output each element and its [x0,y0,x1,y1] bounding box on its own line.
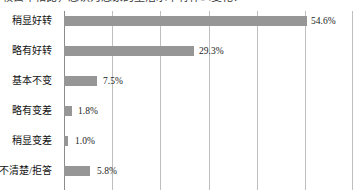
value-label: 1.0% [75,132,95,150]
bar-rows: 稍显好转 54.6% 略有好转 29.3% 基本不变 7.5% 略有变差 1.8… [64,11,353,190]
caption-text: 较去年相比，您认为您家的生活水平有什么变化？ [2,0,244,3]
value-label: 7.5% [103,72,123,90]
bar [64,46,194,56]
value-label: 29.3% [199,42,224,60]
category-label: 略有变差 [0,101,52,121]
category-label: 稍显变差 [0,131,52,151]
category-label: 略有好转 [0,41,52,61]
bar-row: 稍显好转 54.6% [64,11,353,41]
bar [64,136,68,146]
value-label: 54.6% [311,12,336,30]
plot-area: 稍显好转 54.6% 略有好转 29.3% 基本不变 7.5% 略有变差 1.8… [64,11,353,190]
bar-row: 略有好转 29.3% [64,41,353,71]
value-label: 1.8% [78,102,98,120]
category-label: 基本不变 [0,71,52,91]
bar [64,166,90,176]
bar-chart-figure: 较去年相比，您认为您家的生活水平有什么变化？ 稍显好转 54.6% 略有好转 2… [0,0,360,190]
bar-row: 基本不变 7.5% [64,71,353,101]
bar-row: 略有变差 1.8% [64,101,353,131]
bar [64,16,307,26]
bar-row: 稍显变差 1.0% [64,131,353,161]
bar [64,106,72,116]
bar [64,76,97,86]
value-label: 5.8% [97,162,117,180]
category-label: 稍显好转 [0,11,52,31]
bar-row: 说不清楚/拒答 5.8% [64,161,353,190]
category-label: 说不清楚/拒答 [0,161,52,181]
cropped-caption-strip: 较去年相比，您认为您家的生活水平有什么变化？ [0,0,360,6]
